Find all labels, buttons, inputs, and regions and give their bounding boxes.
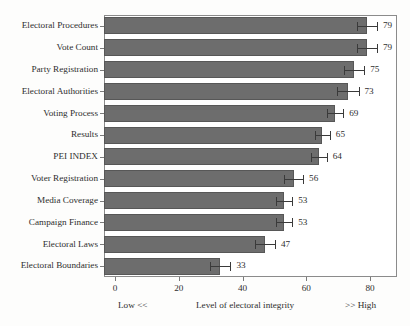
bar <box>104 258 220 275</box>
bar <box>104 192 284 209</box>
category-label: Electoral Boundaries <box>2 261 98 270</box>
error-bar <box>210 266 230 267</box>
bar-value-label: 65 <box>336 130 345 139</box>
error-bar <box>311 157 326 158</box>
category-label: Media Coverage <box>2 196 98 205</box>
error-bar <box>255 244 275 245</box>
category-label: Results <box>2 130 98 139</box>
x-axis-tick <box>115 277 116 281</box>
error-bar <box>315 135 330 136</box>
bar-value-label: 69 <box>349 109 358 118</box>
bar-value-label: 64 <box>333 152 342 161</box>
error-bar-cap <box>210 262 211 271</box>
bar <box>104 236 265 253</box>
category-label: Electoral Laws <box>2 240 98 249</box>
axis-note-low: Low << <box>118 301 148 310</box>
error-bar-cap <box>284 175 285 184</box>
error-bar-cap <box>357 22 358 31</box>
error-bar-cap <box>292 197 293 206</box>
error-bar-cap <box>276 197 277 206</box>
category-label: Vote Count <box>2 43 98 52</box>
x-axis-label: Level of electoral integrity <box>196 301 294 310</box>
bar <box>104 170 294 187</box>
bar-value-label: 53 <box>298 196 307 205</box>
x-axis-tick-label: 40 <box>228 284 258 293</box>
error-bar <box>276 222 293 223</box>
category-label: Campaign Finance <box>2 218 98 227</box>
error-bar-cap <box>315 131 316 140</box>
bar-value-label: 73 <box>365 87 374 96</box>
error-bar-cap <box>230 262 231 271</box>
category-label: PEI INDEX <box>2 152 98 161</box>
bar-value-label: 33 <box>236 261 245 270</box>
error-bar-cap <box>330 131 331 140</box>
bar-value-label: 47 <box>281 240 290 249</box>
category-label: Electoral Procedures <box>2 21 98 30</box>
error-bar-cap <box>327 109 328 118</box>
bar-value-label: 79 <box>383 21 392 30</box>
x-axis-tick-label: 0 <box>100 284 130 293</box>
bar <box>104 127 322 144</box>
error-bar-cap <box>357 44 358 53</box>
error-bar <box>276 201 293 202</box>
error-bar-cap <box>303 175 304 184</box>
bar-value-label: 79 <box>383 43 392 52</box>
category-label: Electoral Authorities <box>2 87 98 96</box>
bar <box>104 61 354 78</box>
bar-value-label: 53 <box>298 218 307 227</box>
error-bar-cap <box>275 240 276 249</box>
bar-value-label: 56 <box>309 174 318 183</box>
error-bar-cap <box>337 87 338 96</box>
error-bar-cap <box>311 153 312 162</box>
error-bar-cap <box>276 218 277 227</box>
error-bar <box>327 113 344 114</box>
x-axis-tick-label: 60 <box>291 284 321 293</box>
category-label: Party Registration <box>2 65 98 74</box>
bar <box>104 148 319 165</box>
error-bar-cap <box>377 44 378 53</box>
error-bar-cap <box>344 66 345 75</box>
axis-note-high: >> High <box>345 301 376 310</box>
error-bar <box>344 70 364 71</box>
error-bar <box>357 48 377 49</box>
error-bar-cap <box>377 22 378 31</box>
error-bar <box>337 91 359 92</box>
bar <box>104 17 367 34</box>
error-bar-cap <box>292 218 293 227</box>
x-axis-tick-label: 80 <box>355 284 385 293</box>
electoral-integrity-bar-chart: Electoral Procedures79Vote Count79Party … <box>0 0 410 326</box>
error-bar <box>284 179 303 180</box>
x-axis-tick-label: 20 <box>164 284 194 293</box>
category-label: Voter Registration <box>2 174 98 183</box>
error-bar <box>357 26 377 27</box>
error-bar-cap <box>364 66 365 75</box>
error-bar-cap <box>359 87 360 96</box>
bar <box>104 105 335 122</box>
bar-value-label: 75 <box>370 65 379 74</box>
error-bar-cap <box>255 240 256 249</box>
error-bar-cap <box>327 153 328 162</box>
x-axis-tick <box>243 277 244 281</box>
category-label: Voting Process <box>2 109 98 118</box>
bar <box>104 39 367 56</box>
x-axis-tick <box>370 277 371 281</box>
bar <box>104 214 284 231</box>
error-bar-cap <box>343 109 344 118</box>
x-axis-tick <box>306 277 307 281</box>
bar <box>104 83 348 100</box>
x-axis-tick <box>179 277 180 281</box>
